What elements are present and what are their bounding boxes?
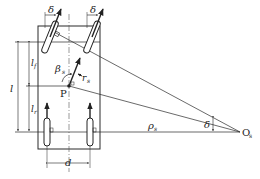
front-left-wheel	[41, 9, 61, 54]
rear-right-wheel	[87, 103, 96, 146]
delta-front-left-label: δ	[48, 4, 54, 15]
delta-front-right-label: δ	[90, 4, 96, 15]
right-angle-p	[71, 82, 74, 85]
velocity-vector	[69, 58, 80, 86]
center-o-sub: s	[249, 132, 252, 139]
beta-label: β	[54, 63, 61, 74]
rho-sub: s	[154, 125, 157, 132]
beta-sub: s	[62, 68, 65, 75]
rho-label: ρ	[147, 120, 154, 131]
steering-geometry-diagram: δ δ β s r s P l l f l r d ρ s δ O s	[0, 0, 260, 179]
l-label: l	[10, 83, 13, 94]
d-label: d	[65, 157, 71, 168]
rear-left-wheel	[44, 103, 53, 146]
r-sub: s	[87, 77, 90, 84]
lf-sub: f	[33, 62, 38, 70]
delta-o-label: δ	[204, 119, 210, 130]
point-p	[67, 84, 71, 88]
point-p-label: P	[60, 88, 67, 99]
lr-sub: r	[34, 108, 38, 115]
